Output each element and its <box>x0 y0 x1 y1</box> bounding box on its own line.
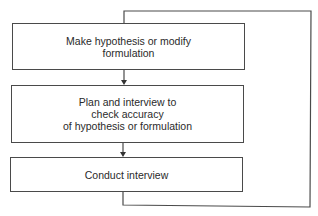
box-make-hypothesis: Make hypothesis or modify formulation <box>12 23 245 70</box>
box-conduct-interview: Conduct interview <box>10 157 243 192</box>
box-label: Plan and interview to check accuracy of … <box>63 96 192 132</box>
box-label: Conduct interview <box>85 169 168 181</box>
box-label: Make hypothesis or modify formulation <box>66 35 191 59</box>
box-plan-interview: Plan and interview to check accuracy of … <box>11 85 244 143</box>
